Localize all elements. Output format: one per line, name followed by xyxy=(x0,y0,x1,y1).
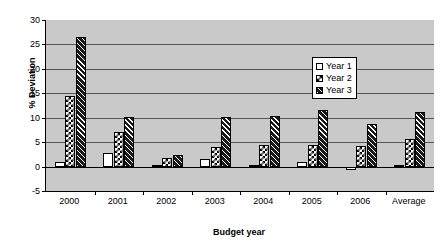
bar xyxy=(65,96,75,167)
bar xyxy=(173,155,183,166)
bar-group xyxy=(240,20,289,191)
x-tick-label: 2000 xyxy=(45,196,94,207)
bar xyxy=(270,116,280,166)
x-tick-mark xyxy=(386,191,387,195)
y-tick-label: -5 xyxy=(14,187,40,196)
x-tick-mark xyxy=(240,191,241,195)
bar-group xyxy=(95,20,144,191)
bar-group xyxy=(337,20,386,191)
bar xyxy=(297,162,307,166)
bar-group xyxy=(289,20,338,191)
bar-chart: % Deviation -5051015202530 2000200120022… xyxy=(0,0,447,251)
x-tick-label: 2005 xyxy=(288,196,337,207)
bar-group xyxy=(143,20,192,191)
bar-group xyxy=(386,20,435,191)
legend-swatch-icon xyxy=(316,75,323,82)
legend-swatch-icon xyxy=(316,87,323,94)
bar xyxy=(318,110,328,167)
bar xyxy=(308,145,318,167)
x-tick-mark xyxy=(143,191,144,195)
bar xyxy=(356,146,366,167)
bar xyxy=(394,165,404,167)
x-tick-label: 2001 xyxy=(94,196,143,207)
legend-label: Year 1 xyxy=(326,62,352,71)
bar xyxy=(124,117,134,167)
x-tick-label: 2006 xyxy=(336,196,385,207)
y-tick-label: 15 xyxy=(14,89,40,98)
bar xyxy=(346,167,356,170)
y-tick-label: 5 xyxy=(14,138,40,147)
x-tick-mark xyxy=(192,191,193,195)
bar xyxy=(259,145,269,167)
bar xyxy=(211,147,221,167)
x-tick-mark xyxy=(289,191,290,195)
bar xyxy=(152,165,162,167)
bar xyxy=(76,37,86,166)
bar-group xyxy=(46,20,95,191)
x-tick-label: 2004 xyxy=(239,196,288,207)
bar xyxy=(114,132,124,166)
legend-label: Year 3 xyxy=(326,86,352,95)
y-tick-label: 10 xyxy=(14,114,40,123)
x-tick-label: 2002 xyxy=(142,196,191,207)
y-tick-label: 20 xyxy=(14,65,40,74)
bar xyxy=(162,158,172,166)
x-tick-mark xyxy=(95,191,96,195)
legend-label: Year 2 xyxy=(326,74,352,83)
legend-item: Year 2 xyxy=(316,72,352,84)
legend-item: Year 1 xyxy=(316,60,352,72)
y-axis-tick-labels: -5051015202530 xyxy=(14,0,40,251)
y-tick-mark xyxy=(42,191,46,192)
bar xyxy=(221,117,231,166)
bar xyxy=(103,153,113,167)
y-tick-label: 30 xyxy=(14,16,40,25)
legend: Year 1Year 2Year 3 xyxy=(312,57,357,99)
x-tick-label: Average xyxy=(385,196,434,207)
bar-group xyxy=(192,20,241,191)
bar xyxy=(415,112,425,167)
bar xyxy=(55,162,65,167)
bar xyxy=(405,139,415,167)
x-axis-tick-labels: 2000200120022003200420052006Average xyxy=(45,196,433,210)
bar-groups-layer xyxy=(46,20,434,191)
y-tick-label: 0 xyxy=(14,163,40,172)
bar xyxy=(249,165,259,167)
legend-item: Year 3 xyxy=(316,84,352,96)
bar xyxy=(367,124,377,167)
x-tick-mark xyxy=(337,191,338,195)
x-axis-title: Budget year xyxy=(45,227,433,237)
x-tick-label: 2003 xyxy=(191,196,240,207)
legend-swatch-icon xyxy=(316,63,323,70)
bar xyxy=(200,159,210,167)
plot-area xyxy=(45,20,434,192)
y-tick-label: 25 xyxy=(14,40,40,49)
